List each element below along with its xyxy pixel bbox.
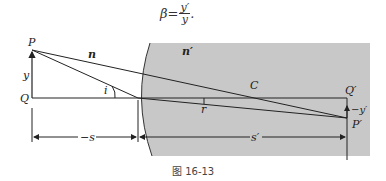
figure-caption: 图 16-13: [172, 163, 214, 178]
label-C: C: [250, 79, 259, 92]
label-r: r: [201, 103, 207, 116]
label-n: n: [88, 48, 96, 61]
label-P-prime: P′: [351, 118, 362, 131]
ray-to-vertex: [32, 50, 138, 98]
label-Q: Q: [20, 92, 29, 105]
label-Q-prime: Q′: [345, 84, 357, 97]
label-i: i: [104, 84, 108, 97]
label-neg-s: −s: [80, 131, 95, 144]
label-P: P: [27, 36, 36, 49]
label-neg-y-prime: −y′: [351, 104, 368, 115]
label-s-prime: s′: [251, 131, 260, 144]
refraction-diagram: P Q y n n′ i r C Q′ −y′ P′ −s s′: [0, 0, 386, 181]
label-n-prime: n′: [182, 45, 193, 58]
label-y: y: [22, 69, 30, 82]
